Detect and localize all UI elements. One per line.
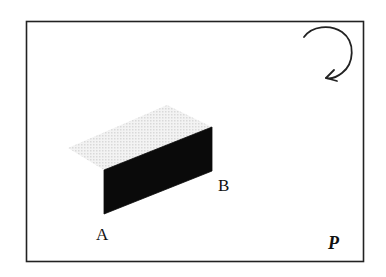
point-label-a: A bbox=[96, 225, 109, 244]
plane-label-p: P bbox=[327, 233, 340, 253]
point-label-b: B bbox=[218, 176, 229, 195]
diagram-canvas: A B P bbox=[0, 0, 386, 277]
rotation-arrow-icon bbox=[304, 27, 352, 81]
